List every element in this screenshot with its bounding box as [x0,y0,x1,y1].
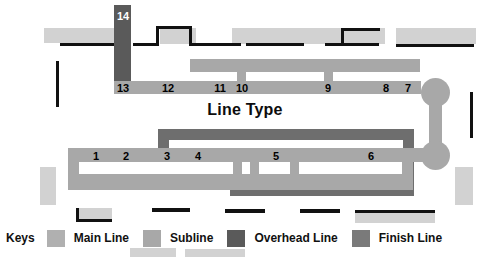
scan-artifact-rule-11 [396,44,474,47]
scan-artifact-rule-4 [156,26,192,29]
track-label-13: 13 [115,83,131,94]
scan-artifact-band-bottom [355,213,435,223]
legend-swatch-main-line [47,230,65,247]
legend-item-overhead-line[interactable]: Overhead Line [227,230,337,247]
scan-artifact-rule-3 [156,27,159,46]
scan-artifact-band-legend [130,248,176,257]
scan-artifact-rule-2 [133,43,156,46]
lower-connector-right [402,148,413,190]
scan-artifact-band-3 [232,28,327,44]
legend-item-finish-line[interactable]: Finish Line [352,230,442,247]
scan-artifact-dash-2 [225,209,265,213]
track-label-2: 2 [120,151,132,162]
track-label-10: 10 [234,83,250,94]
legend-keys-label: Keys [6,231,35,245]
subline-row-bottom [68,174,413,190]
legend: Keys Main Line Subline Overhead Line Fin… [6,227,456,249]
legend-item-subline[interactable]: Subline [143,230,213,247]
scan-artifact-rule-1 [60,43,120,46]
finish-line-left-riser [158,129,169,150]
scan-artifact-box-fill [79,208,112,219]
scan-artifact-block-right [455,167,473,205]
legend-swatch-subline [143,230,161,247]
legend-label-overhead-line: Overhead Line [254,231,337,245]
finish-line-top [158,129,414,140]
scan-artifact-rule-10 [341,28,380,31]
scan-artifact-rule-6 [189,43,241,46]
track-label-6: 6 [365,151,377,162]
track-label-9: 9 [322,83,334,94]
legend-label-main-line: Main Line [74,231,129,245]
track-label-4: 4 [192,151,204,162]
scan-artifact-dash-1 [152,208,190,212]
track-label-14: 14 [115,11,131,22]
legend-label-subline: Subline [170,231,213,245]
track-label-8: 8 [380,83,392,94]
scan-artifact-band-legend-2 [185,249,245,257]
legend-swatch-overhead-line [227,230,245,247]
figure-canvas: 13 12 11 10 9 8 7 14 Line Type 1 2 3 4 5… [0,0,490,257]
subline-upper-long [190,59,420,72]
legend-swatch-finish-line [352,230,370,247]
track-label-12: 12 [160,83,176,94]
legend-item-main-line[interactable]: Main Line [47,230,129,247]
track-label-1: 1 [90,151,102,162]
scan-artifact-rule-7 [246,43,304,46]
scan-artifact-block-left [40,167,56,205]
lower-connector-left [68,148,79,190]
track-label-3: 3 [161,151,173,162]
scan-artifact-dash-3 [300,209,340,213]
lower-connector-mid-3 [290,162,299,175]
scan-artifact-band-5 [396,28,476,44]
legend-label-finish-line: Finish Line [379,231,442,245]
lower-connector-mid-1 [233,162,242,175]
scan-artifact-band-1 [44,28,120,43]
track-label-11: 11 [212,83,228,94]
scan-artifact-rule-8 [325,43,379,46]
lower-connector-mid-2 [250,162,259,175]
track-label-5: 5 [270,151,282,162]
track-label-7: 7 [402,83,414,94]
figure-title: Line Type [0,101,490,119]
scan-artifact-box-bottom [76,219,112,222]
